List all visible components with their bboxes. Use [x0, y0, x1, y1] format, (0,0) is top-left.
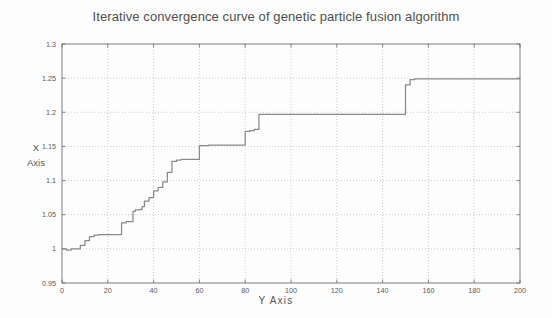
- y-tick-label: 0.95: [42, 279, 56, 288]
- x-tick-label: 100: [285, 286, 297, 295]
- plot-frame: [62, 44, 520, 283]
- horizontal-gridlines: [62, 78, 520, 249]
- x-tick-label: 40: [150, 286, 158, 295]
- x-tick-label: 200: [514, 286, 526, 295]
- x-tick-label: 60: [195, 286, 203, 295]
- y-tick-marks: [62, 44, 520, 283]
- y-tick-label: 1.3: [46, 40, 56, 49]
- y-tick-label: 1.2: [46, 108, 56, 117]
- y-tick-label: 1.25: [42, 74, 56, 83]
- y-tick-labels: 0.9511.051.11.151.21.251.3: [42, 40, 56, 288]
- plot-area: 020406080100120140160180200 0.9511.051.1…: [0, 0, 552, 318]
- figure-container: Iterative convergence curve of genetic p…: [0, 0, 552, 318]
- x-tick-label: 0: [60, 286, 64, 295]
- x-tick-label: 160: [422, 286, 434, 295]
- x-tick-label: 120: [331, 286, 343, 295]
- x-tick-label: 140: [377, 286, 389, 295]
- x-tick-label: 180: [468, 286, 480, 295]
- y-tick-label: 1.05: [42, 210, 56, 219]
- y-tick-label: 1: [52, 244, 56, 253]
- x-tick-label: 20: [104, 286, 112, 295]
- x-tick-labels: 020406080100120140160180200: [60, 286, 526, 295]
- x-tick-marks: [62, 44, 520, 283]
- x-tick-label: 80: [241, 286, 249, 295]
- vertical-gridlines: [108, 44, 474, 283]
- y-tick-label: 1.1: [46, 176, 56, 185]
- y-tick-label: 1.15: [42, 142, 56, 151]
